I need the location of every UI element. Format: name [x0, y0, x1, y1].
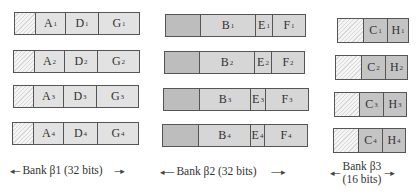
field-label: G	[112, 54, 121, 69]
field-index: 1	[54, 20, 58, 28]
field-index: 3	[121, 93, 125, 101]
field-index: 4	[288, 132, 292, 140]
padding-cell	[334, 129, 359, 152]
field-label: E	[258, 18, 265, 33]
padding-cell	[164, 89, 200, 110]
bank3-label-line1: Bank β3	[343, 160, 382, 173]
field-label: C	[365, 97, 373, 112]
field-index: 3	[228, 96, 232, 104]
padding-cell	[14, 51, 35, 72]
field-index: 1	[231, 22, 235, 30]
field-index: 2	[265, 59, 269, 67]
right-arrow-icon: ---▸	[114, 166, 124, 176]
field-cell: D1	[66, 13, 99, 34]
field-index: 2	[53, 58, 57, 66]
field-cell: F4	[265, 125, 307, 146]
padding-cell	[165, 52, 200, 73]
field-cell: F3	[266, 89, 308, 110]
bank3-row-4: C4 H4	[333, 128, 406, 153]
field-cell: G2	[98, 51, 139, 72]
field-label: D	[75, 16, 84, 31]
field-cell: D3	[64, 86, 97, 107]
field-label: C	[369, 23, 377, 38]
field-label: F	[283, 18, 290, 33]
left-arrow-icon: ◂-----	[160, 167, 174, 177]
field-index: 2	[230, 59, 234, 67]
field-index: 2	[400, 64, 404, 72]
field-label: H	[391, 23, 400, 38]
field-cell: H2	[386, 56, 407, 79]
bank2-label: ◂----- Bank β2 (32 bits) -----▸	[160, 165, 285, 177]
field-label: D	[74, 54, 83, 69]
field-cell: C3	[360, 93, 384, 116]
field-label: A	[42, 89, 51, 104]
padding-cell	[14, 86, 34, 107]
field-label: E	[257, 55, 264, 70]
field-label: B	[221, 55, 229, 70]
field-label: H	[388, 97, 397, 112]
field-index: 4	[121, 130, 125, 138]
bank2-row-3: B3 E3 F3	[163, 88, 309, 111]
field-cell: D2	[65, 51, 98, 72]
bank1-row-4: A4 D4 G4	[12, 122, 139, 145]
bank2-label-text: Bank β2 (32 bits)	[176, 165, 256, 177]
field-label: E	[252, 128, 259, 143]
field-label: B	[218, 128, 226, 143]
field-index: 3	[260, 96, 264, 104]
field-index: 4	[227, 132, 231, 140]
field-cell: A3	[34, 86, 64, 107]
left-arrow-icon: ◂---	[10, 166, 20, 176]
field-label: A	[43, 54, 52, 69]
field-cell: C4	[359, 129, 383, 152]
field-cell: C1	[364, 19, 388, 42]
field-label: D	[74, 126, 83, 141]
field-index: 3	[398, 101, 402, 109]
field-label: E	[252, 92, 259, 107]
field-cell: A1	[36, 13, 66, 34]
field-index: 2	[290, 59, 294, 67]
field-index: 4	[260, 132, 264, 140]
bank3-row-1: C1 HH1	[337, 18, 409, 43]
bank1-row-1: A1 D1 G1	[14, 12, 140, 35]
field-label: A	[44, 16, 53, 31]
field-index: 1	[122, 20, 126, 28]
field-cell: B1	[201, 15, 256, 36]
field-cell: A2	[35, 51, 65, 72]
field-index: 4	[397, 137, 401, 145]
field-cell: HH1	[388, 19, 408, 42]
field-label: A	[42, 126, 51, 141]
field-index: 2	[376, 64, 380, 72]
padding-cell	[163, 125, 199, 146]
field-cell: F2	[272, 52, 304, 73]
bank3-label-line2: (16 bits)	[343, 173, 382, 186]
field-label: B	[219, 92, 227, 107]
field-index: 4	[373, 137, 377, 145]
field-index: 2	[122, 58, 126, 66]
bank1-label-text: Bank β1 (32 bits)	[22, 164, 102, 176]
field-cell: E2	[255, 52, 272, 73]
field-index: 2	[84, 58, 88, 66]
field-label: B	[222, 18, 230, 33]
bank3-row-2: C2 H2	[335, 55, 408, 80]
field-cell: D4	[64, 123, 98, 144]
field-cell: E4	[251, 125, 265, 146]
field-cell: B2	[200, 52, 255, 73]
field-index: 1	[291, 22, 295, 30]
bank3-label-text: Bank β3 (16 bits)	[343, 160, 382, 186]
bank2-row-2: B2 E2 F2	[164, 51, 305, 74]
field-label: C	[364, 133, 372, 148]
field-index: 3	[289, 96, 293, 104]
left-arrow-icon: ◂---	[330, 168, 340, 178]
field-cell: G3	[97, 86, 138, 107]
field-cell: G1	[99, 13, 139, 34]
field-index: 3	[374, 101, 378, 109]
field-index: 1	[85, 20, 89, 28]
right-arrow-icon: ---▸	[384, 168, 394, 178]
bank3-label: ◂--- Bank β3 (16 bits) ---▸	[330, 160, 394, 186]
field-label: G	[111, 126, 120, 141]
padding-cell	[338, 19, 364, 42]
field-index: 4	[52, 130, 56, 138]
right-arrow-icon: -----▸	[271, 167, 285, 177]
field-label: H	[390, 60, 399, 75]
field-label: F	[280, 128, 287, 143]
